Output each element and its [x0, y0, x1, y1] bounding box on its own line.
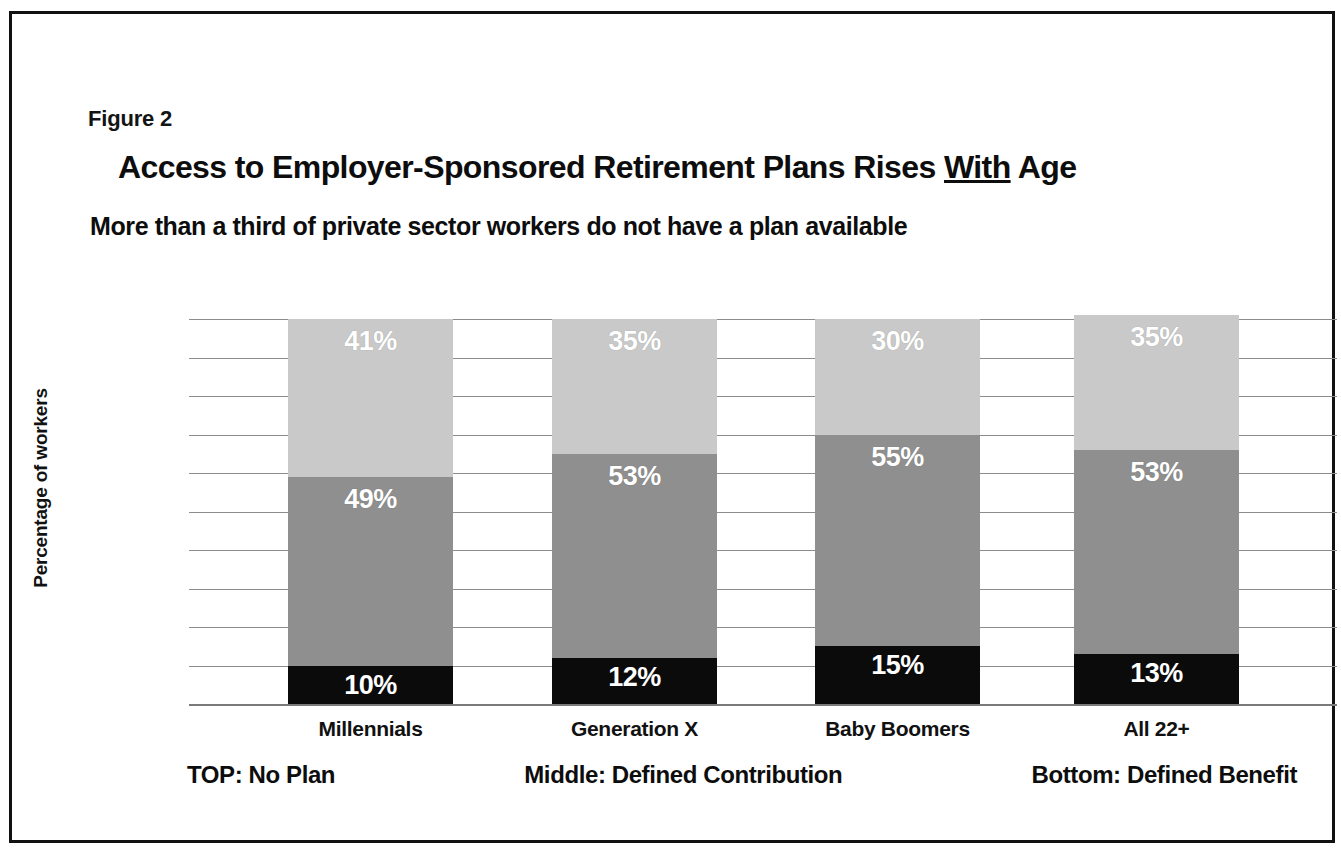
- chart-subtitle: More than a third of private sector work…: [90, 212, 907, 241]
- bar-segment-value-label: 13%: [1130, 658, 1183, 689]
- bar-segment: 35%: [552, 319, 717, 454]
- chart-title: Access to Employer-Sponsored Retirement …: [118, 149, 1076, 186]
- bar-segment-value-label: 41%: [344, 326, 397, 357]
- bar-segment-value-label: 49%: [344, 484, 397, 515]
- bar-segment: 12%: [552, 658, 717, 704]
- bar-segment-value-label: 15%: [871, 650, 924, 681]
- bar-segment: 15%: [815, 646, 980, 704]
- bar-segment: 49%: [288, 477, 453, 666]
- bar-segment: 10%: [288, 666, 453, 705]
- bar-group: 10%49%41%: [288, 319, 453, 704]
- legend: TOP: No Plan Middle: Defined Contributio…: [187, 761, 1297, 789]
- bar-segment-value-label: 55%: [871, 442, 924, 473]
- bar-group: 13%53%35%: [1074, 319, 1239, 704]
- legend-item-defined-benefit: Bottom: Defined Benefit: [1032, 761, 1297, 789]
- x-axis-category-label: Baby Boomers: [778, 717, 1018, 741]
- x-axis-category-label: Generation X: [515, 717, 755, 741]
- bar-segment-value-label: 35%: [1130, 322, 1183, 353]
- bar-segment-value-label: 12%: [608, 662, 661, 693]
- figure-frame: Figure 2 Access to Employer-Sponsored Re…: [9, 11, 1335, 843]
- y-axis-title: Percentage of workers: [30, 368, 52, 608]
- bar-segment: 55%: [815, 435, 980, 647]
- bar-group: 15%55%30%: [815, 319, 980, 704]
- bar-segment: 41%: [288, 319, 453, 477]
- gridline: [189, 704, 1337, 706]
- legend-item-no-plan: TOP: No Plan: [187, 761, 335, 789]
- bar-segment-value-label: 10%: [344, 670, 397, 701]
- chart-title-part-2: Age: [1011, 149, 1077, 185]
- bar-segment: 13%: [1074, 654, 1239, 704]
- x-axis-category-label: Millennials: [251, 717, 491, 741]
- bar-segment: 30%: [815, 319, 980, 435]
- chart-title-part-1: Access to Employer-Sponsored Retirement …: [118, 149, 944, 185]
- bar-segment: 35%: [1074, 315, 1239, 450]
- bar-segment-value-label: 35%: [608, 326, 661, 357]
- figure-number-label: Figure 2: [88, 106, 172, 132]
- x-axis-category-label: All 22+: [1037, 717, 1277, 741]
- chart-title-emphasis: With: [944, 149, 1011, 185]
- bar-segment: 53%: [552, 454, 717, 658]
- bar-segment-value-label: 30%: [871, 326, 924, 357]
- plot-area: 0%10%20%30%40%50%60%70%80%90%100% 10%49%…: [189, 319, 1337, 704]
- legend-item-defined-contribution: Middle: Defined Contribution: [524, 761, 842, 789]
- bar-segment-value-label: 53%: [608, 461, 661, 492]
- bar-segment: 53%: [1074, 450, 1239, 654]
- bar-segment-value-label: 53%: [1130, 457, 1183, 488]
- bar-group: 12%53%35%: [552, 319, 717, 704]
